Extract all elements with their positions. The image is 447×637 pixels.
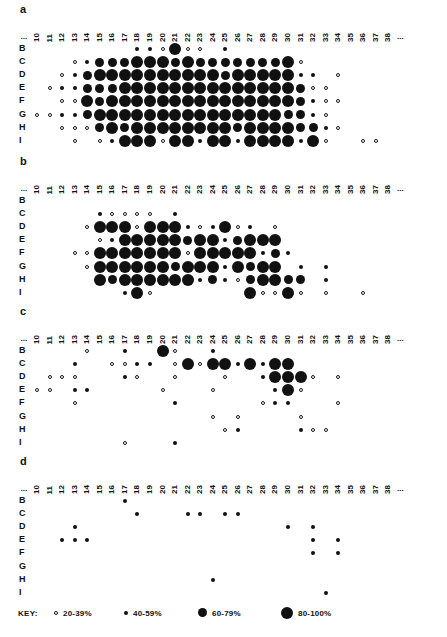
data-point [73, 388, 77, 392]
data-point [282, 358, 294, 370]
data-point [161, 388, 165, 392]
data-point [219, 358, 231, 370]
x-axis-tick: 33 [322, 485, 330, 494]
legend: KEY:20-39%40-59%60-79%80-100% [18, 607, 438, 621]
data-point [148, 47, 152, 51]
data-point [311, 375, 315, 379]
x-axis-tick: 20 [159, 485, 167, 494]
y-axis-tick: F [19, 96, 25, 105]
x-axis: ...1011121314151617181920212223242526272… [0, 14, 447, 42]
data-point [324, 278, 328, 282]
legend-label: 60-79% [212, 609, 241, 618]
y-axis-tick: F [19, 548, 25, 557]
data-point [299, 60, 303, 64]
data-point [336, 126, 340, 130]
x-axis-tick: 10 [33, 485, 41, 494]
x-axis-tick: 37 [372, 485, 380, 494]
data-point [282, 384, 294, 396]
y-axis-tick: F [19, 398, 25, 407]
data-point [284, 275, 293, 284]
data-point [324, 591, 328, 595]
data-point [157, 95, 169, 107]
data-point [282, 135, 294, 147]
data-point [85, 349, 89, 353]
x-axis-tick: 14 [83, 335, 91, 344]
data-point [73, 139, 77, 143]
x-axis-tick: 34 [334, 335, 342, 344]
y-axis-tick: I [19, 288, 22, 297]
data-point [223, 265, 227, 269]
data-point [94, 247, 106, 259]
x-axis-tick: 10 [33, 185, 41, 194]
data-point [95, 123, 104, 132]
x-axis-tick: 32 [309, 185, 317, 194]
data-point [207, 247, 219, 259]
data-point [207, 82, 219, 94]
data-point [232, 95, 244, 107]
x-axis-tick: 14 [83, 185, 91, 194]
x-axis-tick: 36 [359, 335, 367, 344]
data-point [119, 95, 131, 107]
data-point [60, 375, 64, 379]
plot-area: BCDEFGHI [0, 344, 447, 449]
data-point [182, 358, 194, 370]
data-point [148, 362, 152, 366]
data-point [144, 234, 156, 246]
plot-area: BCDEFGHI [0, 42, 447, 147]
x-axis-tick: 30 [284, 33, 292, 42]
x-axis-tick: 29 [271, 33, 279, 42]
data-point [120, 58, 129, 67]
data-point [182, 274, 194, 286]
x-axis-tick: 27 [246, 335, 254, 344]
data-point [311, 86, 315, 90]
data-point [282, 69, 294, 81]
x-axis-tick: 13 [71, 485, 79, 494]
data-point [282, 287, 294, 299]
y-axis-tick: F [19, 248, 25, 257]
data-point [207, 95, 219, 107]
data-point [299, 415, 303, 419]
x-axis-tick: 14 [83, 485, 91, 494]
data-point [223, 238, 227, 242]
x-axis-tick: 32 [309, 485, 317, 494]
x-axis-tick: 18 [133, 335, 141, 344]
data-point [269, 69, 281, 81]
data-point [173, 441, 177, 445]
x-axis: ...1011121314151617181920212223242526272… [0, 316, 447, 344]
y-axis-tick: E [19, 235, 25, 244]
data-point [295, 371, 307, 383]
plot-area: BCDEFGHI [0, 194, 447, 299]
data-point [194, 234, 206, 246]
data-point [106, 109, 118, 121]
x-axis-tick: 22 [184, 33, 192, 42]
data-point [244, 234, 256, 246]
x-axis-tick: 17 [121, 335, 129, 344]
x-axis-leading-ellipsis: ... [20, 185, 27, 193]
data-point [211, 415, 215, 419]
data-point [110, 212, 114, 216]
data-point [299, 428, 303, 432]
y-axis-tick: G [19, 262, 26, 271]
data-point [94, 69, 106, 81]
data-point [196, 58, 205, 67]
y-axis-tick: G [19, 110, 26, 119]
data-point [257, 109, 269, 121]
data-point [194, 261, 206, 273]
data-point [269, 261, 281, 273]
data-point [186, 225, 190, 229]
data-point [119, 82, 131, 94]
x-axis-tick: 23 [196, 185, 204, 194]
data-point [211, 349, 215, 353]
data-point [83, 71, 92, 80]
x-axis-tick: 19 [146, 33, 154, 42]
data-point [261, 401, 265, 405]
data-point [233, 123, 242, 132]
data-point [336, 375, 340, 379]
x-axis-tick: 21 [171, 185, 179, 194]
data-point [123, 212, 127, 216]
data-point [131, 247, 143, 259]
data-point [208, 275, 217, 284]
data-point [186, 251, 190, 255]
data-point [108, 275, 117, 284]
data-point [85, 251, 89, 255]
